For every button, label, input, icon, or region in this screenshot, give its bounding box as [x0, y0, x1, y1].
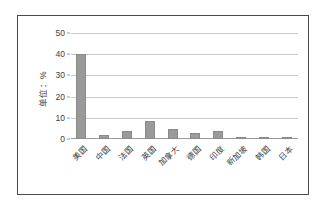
bar[interactable]: [236, 137, 246, 139]
bar-slot: [207, 33, 230, 139]
x-tick-label: 日本: [275, 143, 294, 162]
y-tick-label: 0: [60, 134, 65, 144]
y-tick-label: 40: [56, 49, 65, 59]
bar-slot: [184, 33, 207, 139]
x-label-slot: 法国: [116, 140, 139, 200]
bar-slot: [70, 33, 93, 139]
bar[interactable]: [122, 131, 132, 139]
bar-slot: [161, 33, 184, 139]
y-axis-title-label: 单位：%: [36, 71, 48, 107]
x-tick-label: 法国: [116, 143, 135, 162]
x-label-slot: 韩国: [252, 140, 275, 200]
plot-area: 01020304050: [70, 33, 298, 139]
x-label-slot: 英国: [138, 140, 161, 200]
y-tick-label: 10: [56, 113, 65, 123]
chart-figure: 单位：% 01020304050 美国中国法国英国加拿大德国印度新加坡韩国日本: [17, 15, 309, 195]
x-label-slot: 中国: [93, 140, 116, 200]
bar[interactable]: [76, 54, 86, 139]
bar-slot: [93, 33, 116, 139]
bar[interactable]: [168, 129, 178, 139]
bar-slot: [252, 33, 275, 139]
x-label-slot: 美国: [70, 140, 93, 200]
y-tick-label: 50: [56, 28, 65, 38]
bar-slot: [138, 33, 161, 139]
x-tick-label: 美国: [70, 143, 89, 162]
x-label-slot: 新加坡: [230, 140, 253, 200]
bar-slot: [116, 33, 139, 139]
y-axis-title: 单位：%: [34, 34, 50, 144]
bar[interactable]: [145, 121, 155, 139]
bar[interactable]: [213, 131, 223, 139]
y-tick-label: 30: [56, 70, 65, 80]
x-label-slot: 日本: [275, 140, 298, 200]
x-tick-label: 英国: [138, 143, 157, 162]
x-tick-label: 韩国: [252, 143, 271, 162]
bar[interactable]: [190, 133, 200, 139]
x-label-slot: 德国: [184, 140, 207, 200]
x-label-slot: 加拿大: [161, 140, 184, 200]
x-axis-labels: 美国中国法国英国加拿大德国印度新加坡韩国日本: [70, 140, 298, 200]
x-tick-label: 中国: [93, 143, 112, 162]
y-tick-label: 20: [56, 92, 65, 102]
bar[interactable]: [99, 135, 109, 139]
bar-slot: [230, 33, 253, 139]
bar[interactable]: [259, 137, 269, 139]
x-tick-label: 德国: [184, 143, 203, 162]
x-label-slot: 印度: [207, 140, 230, 200]
bar[interactable]: [282, 137, 292, 139]
bar-slot: [275, 33, 298, 139]
bar-series: [70, 33, 298, 139]
